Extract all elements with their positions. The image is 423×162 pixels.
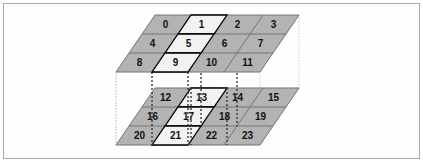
cell-label-9: 9 — [173, 57, 179, 68]
cell-label-15: 15 — [268, 92, 280, 103]
cell-label-10: 10 — [206, 57, 218, 68]
cell-label-11: 11 — [242, 57, 253, 68]
bottom-plane: 121314151617181920212223 — [116, 88, 299, 145]
cell-label-23: 23 — [242, 130, 254, 141]
cell-label-1: 1 — [199, 19, 205, 30]
cell-label-18: 18 — [219, 111, 231, 122]
cell-label-20: 20 — [134, 130, 146, 141]
cell-label-16: 16 — [147, 111, 159, 122]
cell-label-6: 6 — [222, 38, 228, 49]
cell-label-14: 14 — [232, 92, 244, 103]
cell-label-3: 3 — [271, 19, 277, 30]
cell-label-17: 17 — [183, 111, 195, 122]
cell-label-4: 4 — [150, 38, 156, 49]
cell-label-22: 22 — [206, 130, 218, 141]
cell-label-13: 13 — [196, 92, 208, 103]
cell-label-21: 21 — [170, 130, 182, 141]
cell-label-8: 8 — [137, 57, 143, 68]
cell-label-5: 5 — [186, 38, 192, 49]
cell-label-7: 7 — [258, 38, 264, 49]
cell-label-2: 2 — [235, 19, 241, 30]
cell-label-12: 12 — [160, 92, 172, 103]
cell-label-19: 19 — [255, 111, 267, 122]
skewed-grid-diagram: 121314151617181920212223 01234567891011 — [0, 0, 423, 162]
figure-frame: 121314151617181920212223 01234567891011 — [0, 0, 423, 162]
cell-label-0: 0 — [163, 19, 169, 30]
top-plane: 01234567891011 — [116, 15, 299, 72]
